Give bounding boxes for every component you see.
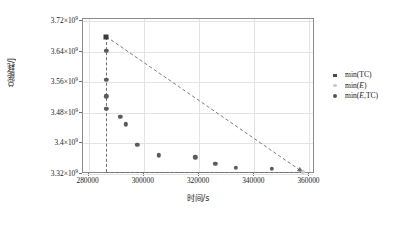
chart-figure: 总能耗/J 时间/s 3.32×1093.4×1093.48×1093.56×1… — [0, 0, 401, 229]
data-point-star — [301, 170, 305, 174]
data-point-circle — [135, 142, 139, 146]
y-tick-label: 3.48×109 — [51, 107, 78, 117]
gridline-vertical — [89, 19, 90, 172]
gridline-vertical — [199, 19, 200, 172]
plot-area — [82, 18, 314, 173]
y-axis-title: 总能耗/J — [6, 58, 18, 87]
x-axis-title: 时间/s — [187, 192, 210, 203]
legend-label: min(E,TC) — [340, 91, 378, 102]
data-point-circle — [213, 162, 217, 166]
data-point-circle — [193, 155, 197, 159]
legend-label: min(TC) — [340, 70, 372, 81]
y-tick-label: 3.56×109 — [51, 76, 78, 86]
gridline-vertical — [309, 19, 310, 172]
legend-label: min(E) — [340, 81, 367, 92]
legend-marker-star-icon — [330, 84, 340, 87]
y-tick-mark — [79, 173, 82, 174]
y-tick-label: 3.32×109 — [51, 168, 78, 178]
gridline-vertical — [254, 19, 255, 172]
gridline-horizontal — [83, 174, 313, 175]
horizontal-guide-line — [106, 172, 303, 173]
gridline-vertical — [144, 19, 145, 172]
x-tick-label: 360000 — [297, 176, 319, 185]
data-point-circle — [234, 165, 238, 169]
legend-item[interactable]: min(E,TC) — [330, 91, 378, 102]
data-point-circle — [118, 115, 122, 119]
data-point-circle — [269, 166, 273, 170]
y-tick-label: 3.64×109 — [51, 46, 78, 56]
data-point-circle — [104, 107, 108, 111]
gridline-horizontal — [83, 113, 313, 114]
legend-item[interactable]: min(TC) — [330, 70, 378, 81]
data-point-square — [104, 34, 109, 39]
x-tick-label: 300000 — [132, 176, 154, 185]
gridline-horizontal — [83, 143, 313, 144]
gridline-horizontal — [83, 82, 313, 83]
legend-marker-square-icon — [330, 74, 340, 77]
chart-legend: min(TC)min(E)min(E,TC) — [330, 70, 378, 102]
legend-marker-circle-icon — [330, 94, 340, 98]
vertical-guide-line — [106, 37, 107, 173]
y-tick-label: 3.72×109 — [51, 15, 78, 25]
data-point-circle — [157, 153, 161, 157]
gridline-horizontal — [83, 21, 313, 22]
gridline-horizontal — [83, 52, 313, 53]
data-point-circle — [123, 122, 127, 126]
x-tick-label: 340000 — [242, 176, 264, 185]
y-tick-label: 3.4×109 — [54, 137, 78, 147]
legend-item[interactable]: min(E) — [330, 81, 378, 92]
x-tick-label: 280000 — [76, 176, 98, 185]
x-tick-label: 320000 — [187, 176, 209, 185]
data-point-circle — [104, 94, 108, 98]
